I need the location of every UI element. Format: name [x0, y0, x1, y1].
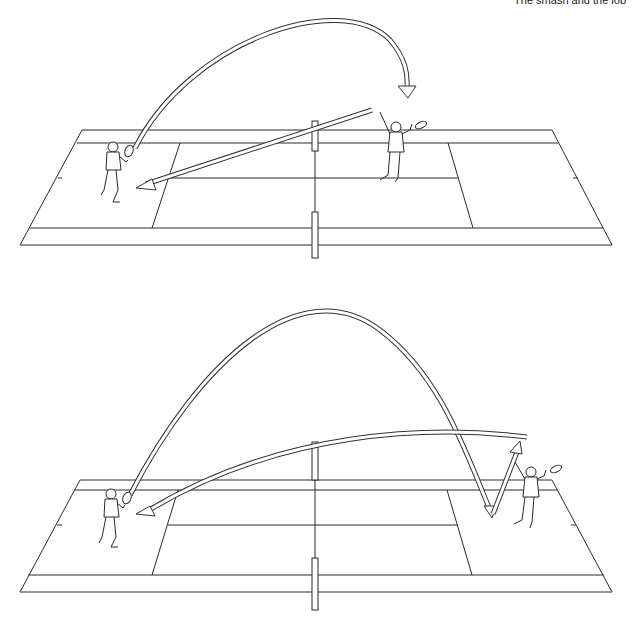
court-top	[20, 121, 612, 258]
trajectory-lob-arc-top	[135, 21, 416, 148]
trajectory-return-lob-bottom	[136, 432, 527, 516]
net-post-near-bottom	[312, 558, 318, 610]
arrowhead-icon	[398, 86, 416, 98]
arrowhead-icon	[510, 441, 522, 454]
court-bottom	[20, 442, 612, 610]
right-service-line-top	[448, 143, 473, 228]
player-right-bottom	[514, 462, 563, 528]
trajectory-deep-lob-bottom	[130, 311, 496, 518]
player-right-top	[380, 112, 428, 182]
tennis-diagrams	[0, 0, 634, 618]
right-service-line-bottom	[447, 490, 472, 575]
trajectory-rebound-bottom	[493, 441, 522, 514]
player-left-bottom	[99, 489, 133, 547]
left-service-line-top	[152, 143, 180, 228]
racket-icon	[123, 144, 135, 158]
player-left-top	[101, 142, 135, 202]
arrowhead-icon	[136, 179, 156, 190]
racket-icon	[414, 120, 427, 131]
racket-icon	[549, 464, 562, 475]
net-post-near-top	[312, 212, 318, 258]
